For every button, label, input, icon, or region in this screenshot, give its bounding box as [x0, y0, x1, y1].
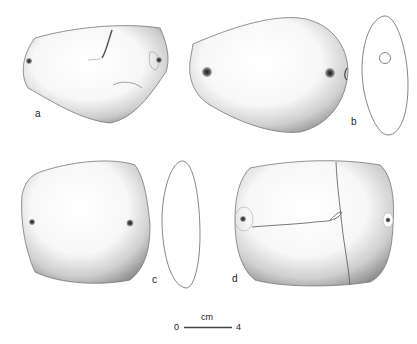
stone-illustrations: [0, 0, 417, 344]
object-a: [23, 26, 168, 123]
object-b-profile: [362, 16, 408, 135]
object-b: [190, 18, 348, 133]
perforation-icon: [127, 220, 134, 227]
perforation-icon: [156, 57, 162, 63]
perforation-icon: [26, 58, 32, 64]
scale-start: 0: [174, 323, 179, 332]
object-d: [235, 161, 394, 286]
object-c: [22, 161, 150, 283]
label-b: b: [351, 117, 357, 127]
scale-unit: cm: [201, 313, 213, 322]
label-d: d: [232, 274, 238, 284]
perforation-icon: [202, 67, 212, 77]
label-c: c: [152, 275, 157, 285]
perforation-icon: [325, 68, 335, 78]
perforation-icon: [29, 219, 35, 225]
scale-end: 4: [236, 323, 241, 332]
object-c-profile: [162, 161, 200, 288]
perforation-icon: [240, 216, 246, 222]
label-a: a: [35, 109, 41, 119]
perforation-icon: [386, 218, 391, 223]
